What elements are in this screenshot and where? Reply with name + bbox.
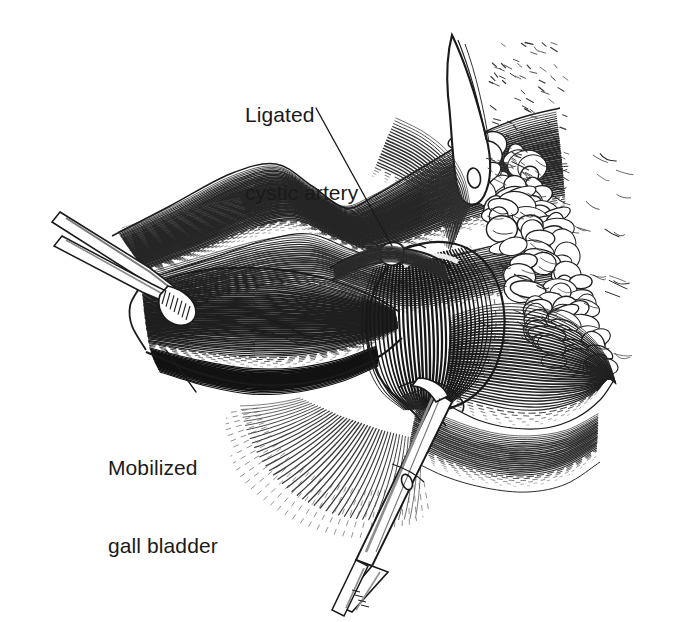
label-ligated-cystic-artery: Ligated cystic artery xyxy=(245,50,358,258)
label-ligated-cystic-artery-line2: cystic artery xyxy=(245,180,358,206)
label-mobilized-gall-bladder-line1: Mobilized xyxy=(108,455,218,481)
label-mobilized-gall-bladder-line2: gall bladder xyxy=(108,533,218,559)
label-ligated-cystic-artery-line1: Ligated xyxy=(245,102,358,128)
label-mobilized-gall-bladder: Mobilized gall bladder xyxy=(108,403,218,611)
illustration-canvas: Ligated cystic artery Mobilized gall bla… xyxy=(0,0,674,622)
